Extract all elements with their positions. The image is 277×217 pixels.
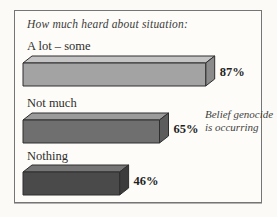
annotation-line-1: Belief genocide bbox=[205, 108, 271, 121]
value-label-a-lot-some: 87% bbox=[220, 65, 245, 80]
category-label-a-lot-some: A lot – some bbox=[27, 39, 91, 54]
bar-a-lot-some bbox=[22, 55, 242, 88]
chart-title: How much heard about situation: bbox=[27, 18, 188, 30]
value-label-not-much: 65% bbox=[174, 122, 199, 137]
annotation-belief-genocide: Belief genocide is occurring bbox=[205, 108, 271, 134]
annotation-line-2: is occurring bbox=[205, 121, 271, 134]
bar-nothing bbox=[22, 164, 242, 197]
category-label-not-much: Not much bbox=[27, 96, 77, 111]
chart-figure: How much heard about situation: A lot – … bbox=[0, 0, 277, 217]
category-label-nothing: Nothing bbox=[27, 149, 68, 164]
value-label-nothing: 46% bbox=[134, 174, 159, 189]
chart-panel: How much heard about situation: A lot – … bbox=[14, 10, 262, 203]
